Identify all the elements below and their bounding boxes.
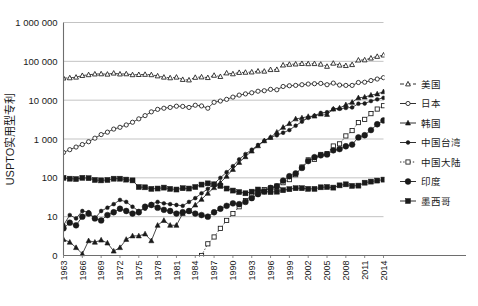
data-point-marker	[106, 206, 110, 210]
data-point-marker	[175, 203, 179, 207]
data-point-marker	[325, 185, 330, 190]
data-point-marker	[74, 217, 78, 221]
data-point-marker	[148, 202, 154, 208]
data-point-marker	[337, 146, 343, 152]
y-axis-title-text: USPTO实用型专利	[3, 93, 16, 186]
data-point-marker	[149, 110, 153, 114]
data-point-marker	[86, 211, 92, 217]
data-point-marker	[181, 104, 185, 108]
data-point-marker	[318, 185, 323, 190]
data-point-marker	[363, 117, 367, 121]
data-point-marker	[68, 213, 72, 217]
data-point-marker	[306, 82, 310, 86]
data-point-marker	[356, 183, 361, 188]
data-point-marker	[312, 82, 316, 86]
data-point-marker	[256, 143, 260, 147]
data-point-marker	[331, 185, 336, 190]
data-point-marker	[237, 190, 242, 195]
data-point-marker	[80, 142, 84, 146]
data-point-marker	[99, 209, 103, 213]
data-point-marker	[287, 84, 291, 88]
data-point-marker	[130, 120, 134, 124]
legend-marker-icon	[406, 141, 410, 145]
x-tick-label: 1984	[190, 261, 200, 281]
data-point-marker	[205, 181, 210, 186]
data-point-marker	[193, 103, 197, 107]
data-point-marker	[268, 190, 273, 195]
data-point-marker	[275, 133, 279, 137]
legend-label: 中国台湾	[421, 137, 461, 148]
data-point-marker	[243, 191, 248, 196]
data-point-marker	[243, 199, 249, 205]
data-point-marker	[374, 121, 380, 127]
data-point-marker	[149, 186, 154, 191]
data-point-marker	[155, 186, 160, 191]
data-point-marker	[167, 208, 173, 214]
y-tick-label: 0	[52, 250, 57, 261]
data-point-marker	[256, 187, 261, 192]
data-point-marker	[244, 152, 248, 156]
data-point-marker	[105, 212, 111, 218]
x-tick-label: 2014	[379, 261, 389, 281]
data-point-marker	[249, 195, 255, 201]
data-point-marker	[86, 176, 91, 181]
y-tick-label: 1 000 000	[15, 17, 57, 28]
legend-marker-icon	[406, 160, 410, 164]
data-point-marker	[313, 114, 317, 118]
data-point-marker	[224, 186, 229, 191]
data-point-marker	[93, 136, 97, 140]
data-point-marker	[112, 127, 116, 131]
data-point-marker	[319, 111, 323, 115]
x-tick-label: 2011	[360, 261, 370, 280]
data-point-marker	[218, 226, 222, 230]
data-point-marker	[79, 214, 85, 220]
data-point-marker	[237, 157, 241, 161]
data-point-marker	[330, 147, 336, 153]
data-point-marker	[218, 176, 222, 180]
data-point-marker	[143, 114, 147, 118]
data-point-marker	[249, 189, 254, 194]
data-point-marker	[338, 107, 342, 111]
data-point-marker	[275, 88, 279, 92]
data-point-marker	[212, 182, 217, 187]
data-point-marker	[218, 183, 223, 188]
x-tick-label: 2005	[322, 261, 332, 281]
data-point-marker	[68, 148, 72, 152]
data-point-marker	[312, 154, 318, 160]
data-point-marker	[205, 214, 211, 220]
data-point-marker	[200, 191, 204, 195]
data-point-marker	[225, 170, 229, 174]
data-point-marker	[274, 184, 280, 190]
data-point-marker	[325, 83, 329, 87]
data-point-marker	[375, 77, 379, 81]
x-tick-label: 1975	[134, 261, 144, 281]
x-tick-label: 1981	[172, 261, 182, 281]
data-point-marker	[262, 89, 266, 93]
data-point-marker	[67, 220, 73, 226]
data-point-marker	[331, 107, 335, 111]
data-point-marker	[137, 117, 141, 121]
data-point-marker	[111, 176, 116, 181]
data-point-marker	[344, 83, 348, 87]
data-point-marker	[174, 187, 179, 192]
data-point-marker	[193, 196, 197, 200]
data-point-marker	[350, 106, 354, 110]
data-point-marker	[350, 128, 354, 132]
data-point-marker	[287, 128, 291, 132]
data-point-marker	[281, 131, 285, 135]
data-point-marker	[112, 202, 116, 206]
data-point-marker	[230, 188, 235, 193]
data-point-marker	[130, 178, 135, 183]
x-tick-label: 1996	[266, 261, 276, 281]
data-point-marker	[231, 164, 235, 168]
data-point-marker	[337, 183, 342, 188]
data-point-marker	[324, 152, 330, 158]
data-point-marker	[299, 165, 305, 171]
data-point-marker	[369, 112, 373, 116]
data-point-marker	[211, 209, 217, 215]
data-point-marker	[337, 142, 341, 146]
data-point-marker	[156, 107, 160, 111]
data-point-marker	[162, 201, 166, 205]
data-point-marker	[262, 139, 266, 143]
data-point-marker	[92, 216, 98, 222]
